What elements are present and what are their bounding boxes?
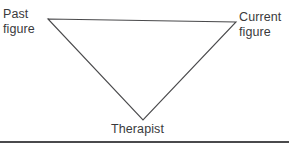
node-label-current-figure-line-2: figure — [239, 25, 281, 40]
node-label-therapist-line-1: Therapist — [111, 122, 164, 137]
figure-root: Past figure Current figure Therapist — [0, 0, 289, 150]
triangle-shape — [48, 19, 236, 120]
footer-divider-rule — [0, 141, 289, 143]
node-label-past-figure-line-1: Past — [3, 7, 35, 22]
node-label-current-figure-line-1: Current — [239, 10, 281, 25]
node-label-current-figure: Current figure — [239, 10, 281, 39]
node-label-therapist: Therapist — [111, 122, 164, 137]
node-label-past-figure-line-2: figure — [3, 22, 35, 37]
node-label-past-figure: Past figure — [3, 7, 35, 36]
